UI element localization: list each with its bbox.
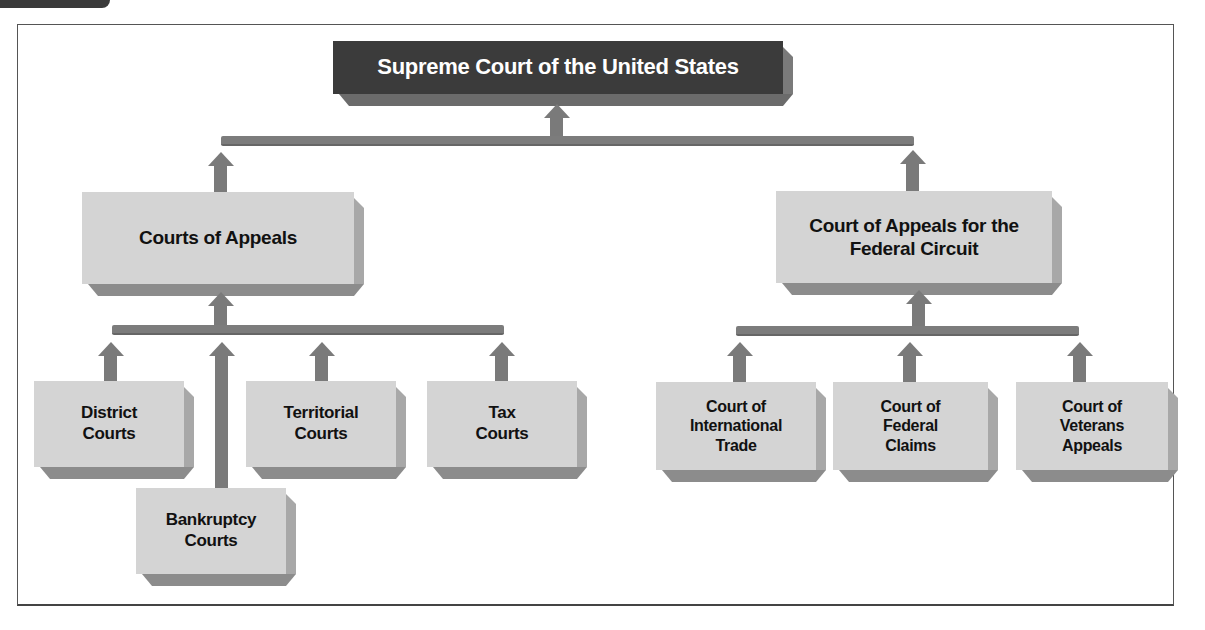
federal-circuit-label-line2: Federal Circuit [850,238,979,259]
box-depth [1052,197,1062,283]
box-depth [286,494,296,574]
district-courts-box: District Courts [34,381,184,467]
box-depth [839,470,998,482]
arrow-up-icon [489,342,515,382]
bankruptcy-courts-line1: Bankruptcy [166,510,257,529]
territorial-courts-line1: Territorial [284,403,359,422]
box-depth [1168,388,1178,470]
veterans-appeals-line1: Court of [1062,398,1122,415]
arrow-up-icon [208,152,234,192]
arrow-up-icon [897,342,923,382]
box-depth [1022,470,1178,482]
box-depth [988,388,998,470]
international-trade-label: Court of International Trade [690,397,782,456]
veterans-appeals-line2: Veterans [1060,417,1124,434]
box-depth [40,467,194,479]
federal-claims-label: Court of Federal Claims [881,397,941,456]
federal-claims-line1: Court of [881,398,941,415]
box-depth [184,387,194,467]
territorial-courts-box: Territorial Courts [246,381,396,467]
federal-circuit-label-line1: Court of Appeals for the [809,215,1019,236]
federal-claims-line2: Federal [883,417,938,434]
arrow-up-icon [209,342,235,488]
tax-courts-label: Tax Courts [476,403,529,444]
federal-circuit-label: Court of Appeals for the Federal Circuit [809,214,1019,260]
connector-bar-top [221,136,914,146]
corner-tab [0,0,110,8]
box-depth [396,387,406,467]
district-courts-label: District Courts [81,403,137,444]
international-trade-line2: International [690,417,782,434]
connector-bar-right [736,326,1079,336]
arrow-up-icon [544,104,570,138]
arrow-up-icon [900,150,926,192]
federal-circuit-box: Court of Appeals for the Federal Circuit [776,191,1052,283]
box-depth [142,574,296,586]
arrow-up-icon [309,342,335,382]
box-depth [577,387,587,467]
veterans-appeals-line3: Appeals [1062,437,1122,454]
supreme-court-box: Supreme Court of the United States [333,41,783,94]
territorial-courts-label: Territorial Courts [284,403,359,444]
arrow-up-icon [208,292,234,328]
box-depth [816,388,826,470]
district-courts-line2: Courts [83,424,136,443]
courts-of-appeals-label: Courts of Appeals [139,226,297,249]
supreme-court-label: Supreme Court of the United States [377,54,738,81]
federal-claims-line3: Claims [885,437,936,454]
tax-courts-line1: Tax [488,403,515,422]
international-trade-line3: Trade [715,437,756,454]
box-depth [252,467,406,479]
veterans-appeals-label: Court of Veterans Appeals [1060,397,1124,456]
box-depth [433,467,587,479]
arrow-up-icon [98,342,124,382]
federal-claims-box: Court of Federal Claims [833,382,988,470]
arrow-up-icon [727,342,753,382]
international-trade-line1: Court of [706,398,766,415]
bankruptcy-courts-line2: Courts [185,531,238,550]
tax-courts-box: Tax Courts [427,381,577,467]
veterans-appeals-box: Court of Veterans Appeals [1016,382,1168,470]
tax-courts-line2: Courts [476,424,529,443]
arrow-up-icon [1067,342,1093,382]
arrow-up-icon [906,290,932,330]
bankruptcy-courts-box: Bankruptcy Courts [136,488,286,574]
territorial-courts-line2: Courts [295,424,348,443]
box-depth [354,198,364,284]
courts-of-appeals-box: Courts of Appeals [82,192,354,284]
district-courts-line1: District [81,403,137,422]
box-depth [662,470,826,482]
connector-bar-left [112,325,504,335]
international-trade-box: Court of International Trade [656,382,816,470]
bankruptcy-courts-label: Bankruptcy Courts [166,510,257,551]
